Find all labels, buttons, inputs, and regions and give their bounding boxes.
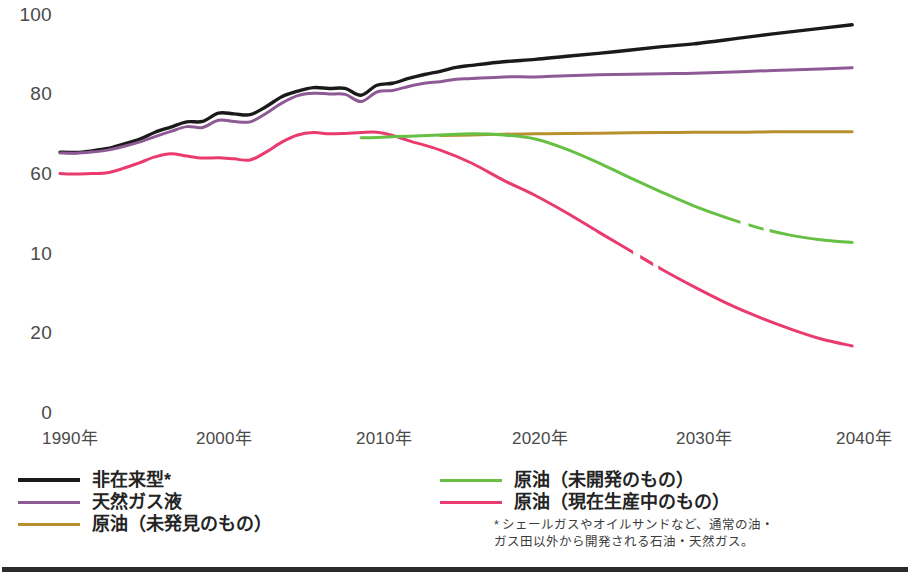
legend-item-ngl[interactable]: 天然ガス液 [18,491,272,513]
chart-footnote: * シェールガスやオイルサンドなど、通常の油・ ガス田以外から開発される石油・天… [494,517,774,551]
legend-column-left: 非在来型* 天然ガス液 原油（未発見のもの） [18,469,272,535]
x-axis-tick-2020: 2020年 [512,424,568,449]
y-axis-tick-20: 20 [0,322,52,344]
y-axis-tick-80: 80 [0,83,52,105]
legend-line-swatch-ngl [18,501,80,504]
chart-line-series-2 [60,68,852,154]
bottom-divider-rule [2,567,908,572]
chart-legend: 非在来型* 天然ガス液 原油（未発見のもの） 原油（未開発のもの） 原油（現在生… [0,455,912,565]
x-axis-tick-2030: 2030年 [676,424,732,449]
legend-label-undiscovered: 原油（未発見のもの） [92,514,272,534]
footnote-line-2: ガス田以外から開発される石油・天然ガス。 [494,534,774,551]
legend-line-swatch-producing [440,501,502,504]
y-axis-tick-0: 0 [0,402,52,424]
legend-item-unconventional[interactable]: 非在来型* [18,469,272,491]
y-axis-tick-60: 60 [0,163,52,185]
x-axis-tick-2000: 2000年 [196,424,252,449]
plot-area [0,0,912,420]
legend-line-swatch-undiscovered [18,523,80,526]
footnote-line-1: * シェールガスやオイルサンドなど、通常の油・ [494,517,774,534]
legend-label-undeveloped: 原油（未開発のもの） [514,470,694,490]
legend-label-ngl: 天然ガス液 [92,492,182,512]
y-axis-tick-100: 100 [0,4,52,26]
chart-line-dash-gap-1 [633,251,640,259]
legend-label-unconventional: 非在来型* [92,470,171,490]
y-axis-tick-40: 10 [0,243,52,265]
legend-column-right: 原油（未開発のもの） 原油（現在生産中のもの） [440,469,730,513]
legend-item-producing[interactable]: 原油（現在生産中のもの） [440,491,730,513]
chart-plot-svg [0,0,912,420]
chart-line-series-5 [60,132,852,346]
legend-line-swatch-unconventional [18,478,80,482]
chart-line-series-4 [361,134,852,243]
chart-line-dash-gap-3 [740,219,748,227]
legend-item-undeveloped[interactable]: 原油（未開発のもの） [440,469,730,491]
x-axis-tick-2040: 2040年 [836,424,892,449]
chart-figure: 100 80 60 10 20 0 1990年 2000年 2010年 2020… [0,0,912,576]
chart-line-dash-gap-2 [653,262,658,270]
x-axis-tick-2010: 2010年 [356,424,412,449]
legend-item-undiscovered[interactable]: 原油（未発見のもの） [18,513,272,535]
x-axis-tick-1990: 1990年 [42,424,98,449]
legend-line-swatch-undeveloped [440,479,502,482]
legend-label-producing: 原油（現在生産中のもの） [514,492,730,512]
chart-line-dash-gap-4 [764,226,770,234]
